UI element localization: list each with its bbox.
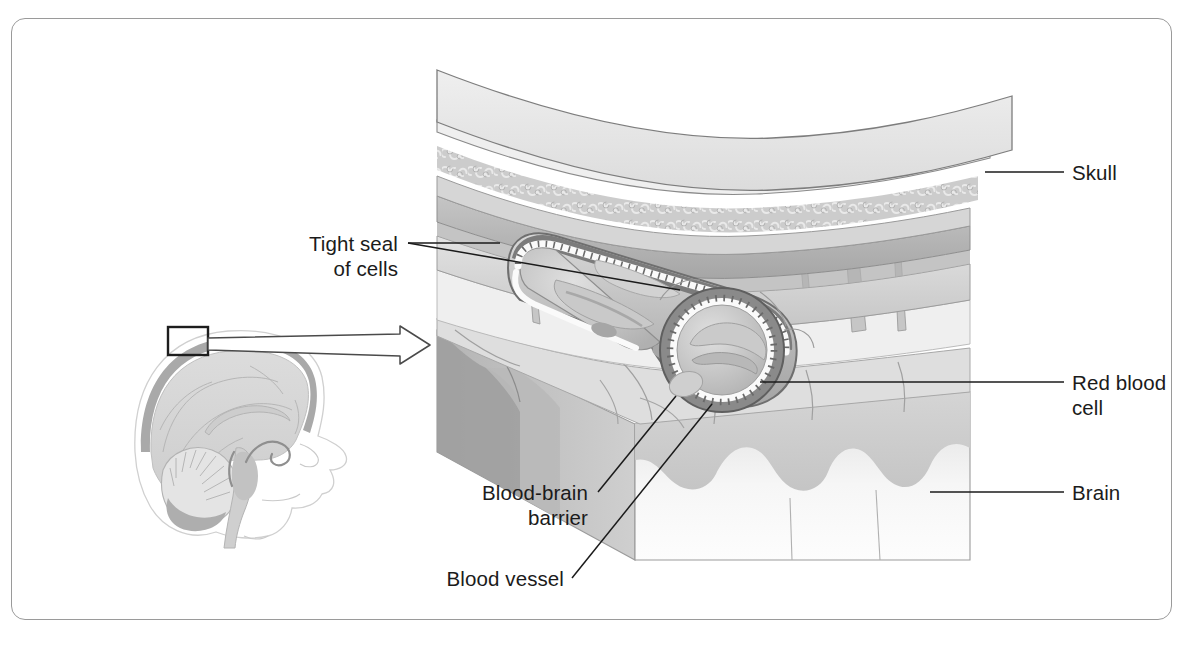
label-red-blood-cell: Red blood cell — [1072, 370, 1166, 420]
label-tight-seal-of-cells: Tight seal of cells — [98, 231, 398, 281]
blood-brain-barrier-figure: Skull Red blood cell Brain Tight seal of… — [0, 0, 1196, 646]
label-blood-brain-barrier: Blood-brain barrier — [238, 480, 588, 530]
figure-frame-border — [11, 18, 1172, 620]
label-brain: Brain — [1072, 480, 1120, 505]
label-skull: Skull — [1072, 160, 1117, 185]
label-blood-vessel: Blood vessel — [238, 566, 564, 591]
